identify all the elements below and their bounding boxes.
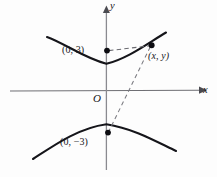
x-axis — [10, 87, 207, 94]
graph-canvas — [0, 0, 217, 177]
y-axis-label: y — [110, 1, 115, 12]
label-point-0-3: (0, 3) — [62, 45, 84, 55]
y-axis-arrowhead — [103, 6, 110, 14]
point-marker-0-3 — [104, 48, 110, 54]
lower-branch-curve — [33, 124, 176, 159]
point-marker-xy — [149, 42, 155, 48]
dashed-connector-diagonal — [108, 45, 151, 132]
origin-label: O — [93, 93, 101, 104]
x-axis-label: x — [203, 85, 208, 96]
x-axis-line — [10, 90, 199, 91]
dashed-connector-horizontal — [109, 46, 150, 51]
y-axis — [103, 6, 110, 171]
label-point-xy: (x, y) — [148, 51, 169, 61]
point-marker-0-neg3 — [105, 130, 111, 136]
hyperbola-figure: (0, 3) (0, −3) (x, y) x y O — [0, 0, 217, 177]
label-point-0-neg3: (0, −3) — [60, 137, 88, 147]
